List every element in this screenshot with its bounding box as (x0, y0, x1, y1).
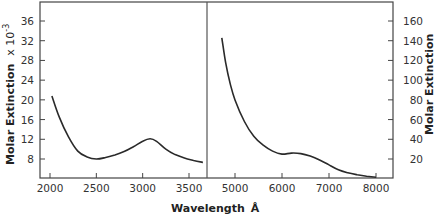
x-tick-label: 3500 (176, 182, 203, 194)
left-y-axis: 812162024283236 (21, 15, 45, 165)
y-tick-label: 160 (403, 15, 423, 27)
y-tick-label: 8 (27, 153, 34, 165)
y-tick-label: 140 (403, 35, 423, 47)
x-tick-label: 7000 (316, 182, 343, 194)
plot-frame (40, 2, 393, 178)
y-tick-label: 24 (21, 74, 35, 86)
x-tick-label: 8000 (363, 182, 390, 194)
x-tick-label: 2000 (37, 182, 64, 194)
y-tick-label: 80 (410, 94, 423, 106)
y-tick-label: 12 (21, 133, 34, 145)
y-tick-label: 100 (403, 74, 423, 86)
y-tick-label: 60 (410, 114, 423, 126)
x-tick-label: 2500 (83, 182, 110, 194)
left-y-axis-title: Molar Extinctionx 10-3 (2, 24, 17, 165)
absorption-spectrum-chart: 812162024283236 20406080100120140160 200… (0, 0, 438, 220)
visible-absorption-curve (222, 38, 376, 177)
y-tick-label: 40 (410, 133, 423, 145)
y-tick-label: 20 (21, 94, 34, 106)
x-tick-label: 6000 (269, 182, 296, 194)
uv-absorption-curve (52, 96, 203, 162)
y-tick-label: 20 (410, 153, 423, 165)
x-axis-title: WavelengthÅ (171, 202, 260, 215)
y-tick-label: 28 (21, 54, 34, 66)
right-y-axis-title: Molar Extinction (423, 34, 436, 135)
y-tick-label: 36 (21, 15, 35, 27)
y-tick-label: 120 (403, 54, 423, 66)
y-tick-label: 16 (21, 114, 35, 126)
x-axis: 20002500300035005000600070008000 (37, 173, 390, 194)
x-tick-label: 3000 (129, 182, 156, 194)
x-tick-label: 5000 (222, 182, 249, 194)
y-tick-label: 32 (21, 35, 34, 47)
